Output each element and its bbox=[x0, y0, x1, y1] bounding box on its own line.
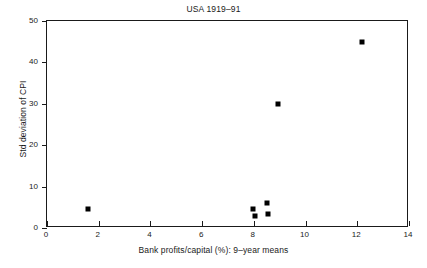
x-tick-mark bbox=[99, 221, 100, 226]
x-tick-label: 14 bbox=[404, 230, 413, 239]
x-tick-label: 8 bbox=[251, 230, 255, 239]
x-axis-label: Bank profits/capital (%): 9–year means bbox=[0, 245, 427, 255]
x-tick-mark bbox=[306, 221, 307, 226]
x-tick-mark bbox=[202, 221, 203, 226]
x-tick-label: 2 bbox=[95, 230, 99, 239]
x-tick-mark bbox=[150, 221, 151, 226]
chart-title: USA 1919–91 bbox=[0, 4, 427, 14]
y-tick-mark bbox=[42, 145, 47, 146]
y-tick-mark bbox=[42, 228, 47, 229]
y-tick-mark bbox=[42, 21, 47, 22]
y-tick-mark bbox=[42, 62, 47, 63]
x-tick-label: 4 bbox=[147, 230, 151, 239]
x-tick-mark bbox=[357, 221, 358, 226]
x-tick-label: 12 bbox=[352, 230, 361, 239]
data-point bbox=[250, 207, 255, 212]
y-tick-label: 40 bbox=[29, 57, 38, 66]
data-point bbox=[264, 201, 269, 206]
y-tick-label: 50 bbox=[29, 16, 38, 25]
y-tick-label: 30 bbox=[29, 98, 38, 107]
x-tick-label: 0 bbox=[44, 230, 48, 239]
y-tick-label: 10 bbox=[29, 181, 38, 190]
data-point bbox=[86, 206, 91, 211]
scatter-plot-figure: USA 1919–91 Std deviation of CPI 0246810… bbox=[0, 0, 427, 268]
y-tick-mark bbox=[42, 187, 47, 188]
plot-area bbox=[46, 20, 408, 227]
y-axis-label: Std deviation of CPI bbox=[18, 44, 28, 194]
x-tick-label: 6 bbox=[199, 230, 203, 239]
data-point bbox=[266, 211, 271, 216]
data-point bbox=[360, 39, 365, 44]
x-tick-mark bbox=[409, 221, 410, 226]
x-tick-mark bbox=[47, 221, 48, 226]
y-tick-label: 20 bbox=[29, 140, 38, 149]
x-tick-mark bbox=[254, 221, 255, 226]
data-point bbox=[253, 214, 258, 219]
x-tick-label: 10 bbox=[300, 230, 309, 239]
y-tick-label: 0 bbox=[34, 223, 38, 232]
y-tick-mark bbox=[42, 104, 47, 105]
data-point bbox=[276, 101, 281, 106]
